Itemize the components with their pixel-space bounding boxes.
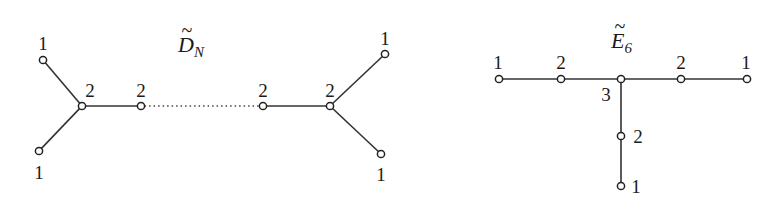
node-label: 2: [325, 80, 335, 101]
node-label: 1: [631, 176, 641, 197]
edge: [45, 63, 79, 104]
node-label: 1: [376, 164, 386, 185]
node: [381, 50, 388, 57]
tilde-accent-icon: ~: [182, 19, 193, 41]
edge: [333, 56, 383, 103]
e-6-edges: [503, 79, 744, 182]
node: [557, 75, 564, 82]
node-label: 2: [556, 52, 566, 73]
tilde-accent-icon: ~: [615, 15, 626, 37]
node-label: 1: [380, 28, 390, 49]
d-n-tilde-diagram: 11222211 DN~: [34, 19, 390, 185]
node: [495, 75, 502, 82]
node-label: 1: [34, 162, 44, 183]
node-label: 1: [741, 52, 751, 73]
node-label: 3: [601, 84, 611, 105]
e-6-nodes: [495, 75, 750, 189]
node: [677, 75, 684, 82]
node-label: 2: [676, 52, 686, 73]
node: [377, 150, 384, 157]
node: [137, 102, 144, 109]
node: [259, 102, 266, 109]
title-subscript: N: [193, 44, 205, 60]
node-label: 2: [85, 80, 95, 101]
edge: [333, 108, 379, 151]
node-label: 1: [493, 52, 503, 73]
node: [78, 102, 85, 109]
edge: [41, 109, 79, 149]
node: [617, 182, 624, 189]
title-subscript: 6: [624, 40, 632, 56]
node-label: 2: [633, 126, 643, 147]
node: [743, 75, 750, 82]
e-6-labels: 1232121: [493, 52, 751, 197]
e-6-tilde-diagram: 1232121 E6~: [493, 15, 751, 197]
node-label: 2: [258, 80, 268, 101]
e-6-title: E6~: [610, 15, 632, 56]
d-n-nodes: [35, 50, 388, 157]
node-label: 2: [136, 80, 146, 101]
node: [39, 56, 46, 63]
node-label: 1: [38, 33, 48, 54]
node: [35, 147, 42, 154]
diagram-canvas: 11222211 DN~ 1232121 E6~: [0, 0, 781, 207]
node: [617, 75, 624, 82]
node: [326, 102, 333, 109]
node: [617, 132, 624, 139]
d-n-title: DN~: [177, 19, 205, 60]
